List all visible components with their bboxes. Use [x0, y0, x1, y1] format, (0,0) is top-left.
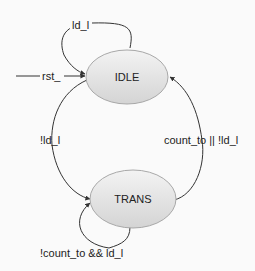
label-trans-self: !count_to && ld_l: [40, 247, 123, 259]
state-trans-label: TRANS: [114, 193, 151, 205]
state-idle-label: IDLE: [115, 71, 139, 83]
state-diagram: IDLE TRANS rst_ ld_l !ld_l count_to || !…: [0, 0, 255, 271]
label-trans-to-idle: count_to || !ld_l: [164, 134, 238, 146]
label-reset: rst_: [42, 70, 61, 82]
label-idle-to-trans: !ld_l: [40, 134, 60, 146]
label-idle-self: ld_l: [72, 19, 89, 31]
diagram-svg: IDLE TRANS rst_ ld_l !ld_l count_to || !…: [0, 0, 255, 271]
